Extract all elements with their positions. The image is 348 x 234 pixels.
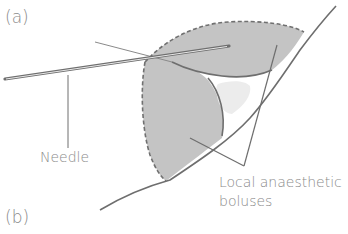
needle-label: Needle bbox=[40, 150, 89, 164]
panel-a-label: (a) bbox=[5, 9, 29, 26]
local-anaesthetic-label-line1: Local anaesthetic bbox=[219, 175, 342, 189]
panel-b-label: (b) bbox=[5, 209, 29, 226]
local-anaesthetic-label-line2: boluses bbox=[219, 194, 272, 208]
nerve-block-diagram bbox=[0, 0, 348, 234]
